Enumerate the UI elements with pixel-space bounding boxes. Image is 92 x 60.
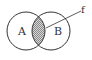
- annotation-label: f: [81, 4, 86, 15]
- set-a-label: A: [17, 25, 27, 38]
- venn-diagram: A B f: [0, 0, 92, 60]
- annotation-leader-line: [46, 11, 81, 28]
- set-b-label: B: [54, 25, 62, 38]
